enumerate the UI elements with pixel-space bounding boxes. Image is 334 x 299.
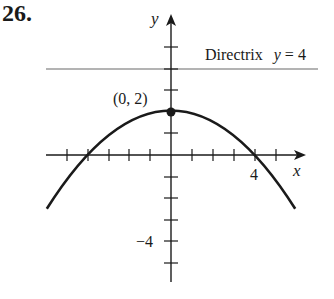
directrix-y: y [272,46,282,64]
y-tick-label-neg4: −4 [136,233,153,250]
x-axis-label: x [292,161,301,180]
directrix-word: Directrix [205,46,263,63]
directrix-eq: = 4 [285,46,306,63]
x-tick-label-4: 4 [250,166,258,183]
vertex-point [167,108,176,117]
vertex-label: (0, 2) [113,90,148,108]
directrix-label: Directrix y = 4 [205,46,306,64]
y-axis-label: y [149,9,159,28]
parabola-graph: y x (0, 2) Directrix y = 4 4 −4 [0,0,334,299]
